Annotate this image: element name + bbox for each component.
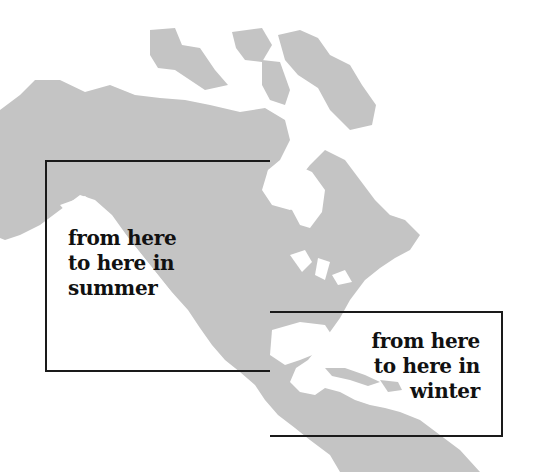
summer-label-line-2: to here in <box>68 251 176 276</box>
migration-map: from here to here in summer from here to… <box>0 0 536 472</box>
summer-label: from here to here in summer <box>68 226 176 301</box>
winter-label-line-1: from here <box>372 329 480 354</box>
summer-label-line-3: summer <box>68 276 176 301</box>
winter-label-line-2: to here in <box>372 354 480 379</box>
winter-label: from here to here in winter <box>372 329 480 404</box>
winter-label-line-3: winter <box>372 379 480 404</box>
summer-label-line-1: from here <box>68 226 176 251</box>
